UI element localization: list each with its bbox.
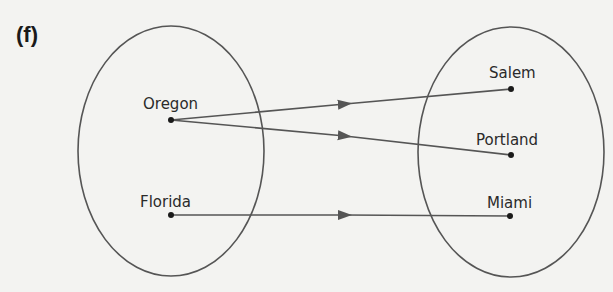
label-portland: Portland: [476, 131, 538, 149]
mapping-oregon-portland: [171, 120, 511, 155]
point-salem: [508, 86, 514, 92]
label-miami: Miami: [487, 194, 532, 212]
mapping-florida-miami: [171, 215, 510, 216]
point-florida: [168, 212, 174, 218]
mapping-diagram: (f) Oregon F: [0, 0, 613, 292]
domain-set-ellipse: [78, 26, 264, 276]
point-oregon: [168, 117, 174, 123]
point-miami: [507, 213, 513, 219]
label-florida: Florida: [140, 193, 191, 211]
label-oregon: Oregon: [143, 95, 198, 113]
point-portland: [508, 152, 514, 158]
label-salem: Salem: [489, 64, 536, 82]
panel-label: (f): [16, 22, 38, 48]
mapping-oregon-salem: [171, 89, 511, 120]
diagram-canvas: Oregon Florida Salem Portland Miami: [0, 0, 613, 292]
